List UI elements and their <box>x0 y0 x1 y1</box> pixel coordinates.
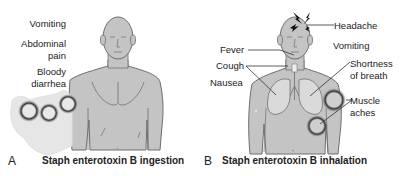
label-fever: Fever <box>220 44 244 55</box>
caption-inhalation: Staph enterotoxin B inhalation <box>222 155 367 166</box>
label-cough: Cough <box>216 60 244 71</box>
panel-a-ingestion: Vomiting Abdominal pain Bloody diarrhea … <box>0 0 208 176</box>
label-muscle-aches-line2: aches <box>350 107 375 118</box>
panel-letter-a: A <box>8 154 16 168</box>
caption-ingestion: Staph enterotoxin B ingestion <box>42 155 184 166</box>
label-shortness-of-breath-line1: Shortness <box>350 58 393 69</box>
label-nausea: Nausea <box>210 77 243 88</box>
label-bloody-diarrhea-line1: Bloody <box>37 66 66 77</box>
label-vomiting: Vomiting <box>30 18 66 29</box>
label-shortness-of-breath-line2: of breath <box>350 70 388 81</box>
human-figure-inhalation <box>206 0 416 176</box>
label-abdominal-pain-line1: Abdominal <box>21 38 66 49</box>
label-headache: Headache <box>334 20 377 31</box>
label-vomiting: Vomiting <box>333 40 369 51</box>
label-abdominal-pain-line2: pain <box>48 50 66 61</box>
panel-b-inhalation: Headache Fever Vomiting Cough Shortness … <box>206 0 416 176</box>
panel-letter-b: B <box>204 154 212 168</box>
label-muscle-aches-line1: Muscle <box>350 95 380 106</box>
label-bloody-diarrhea-line2: diarrhea <box>31 78 66 89</box>
